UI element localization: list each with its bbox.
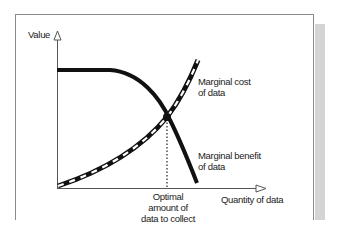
benefit-label-line1: Marginal benefit bbox=[198, 150, 261, 161]
optimal-point bbox=[163, 113, 171, 121]
benefit-label-line2: of data bbox=[198, 161, 261, 172]
marginal-cost-curve-outline bbox=[58, 60, 198, 186]
cost-curve-label: Marginal cost of data bbox=[198, 76, 251, 98]
cost-label-line2: of data bbox=[198, 87, 251, 98]
marginal-cost-curve-dashes bbox=[58, 60, 198, 186]
benefit-curve-label: Marginal benefit of data bbox=[198, 150, 261, 172]
x-axis-arrow-icon bbox=[256, 185, 266, 192]
y-axis-label: Value bbox=[28, 29, 50, 40]
y-axis-arrow-icon bbox=[54, 31, 61, 40]
cost-label-line1: Marginal cost bbox=[198, 76, 251, 87]
marginal-benefit-curve bbox=[57, 70, 197, 183]
optimal-label: Optimal amount of data to collect bbox=[140, 191, 196, 224]
x-axis-label: Quantity of data bbox=[221, 194, 283, 205]
